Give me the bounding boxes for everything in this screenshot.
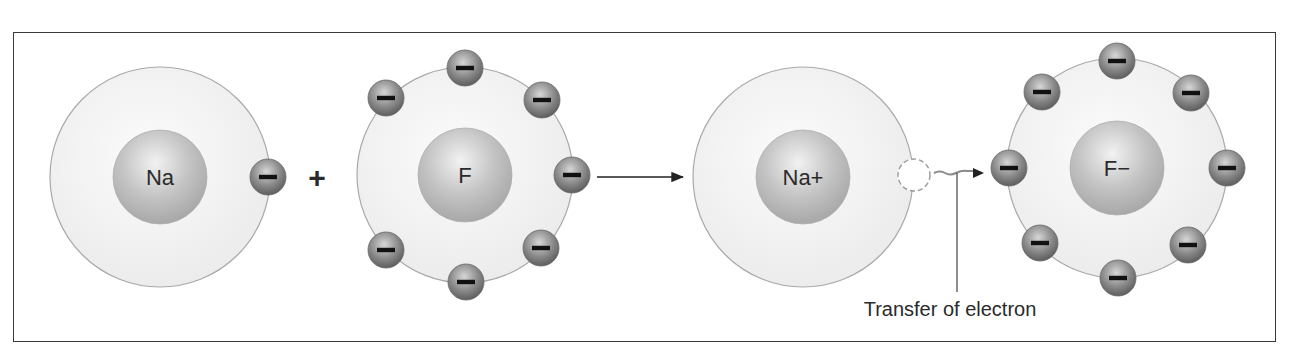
electron-icon: [368, 232, 404, 268]
electron-icon: [1022, 225, 1058, 261]
electron-icon: [524, 82, 560, 118]
vacant-electron-position: [898, 159, 930, 191]
atom-label: F−: [1104, 156, 1130, 181]
atom-label: Na+: [783, 165, 824, 190]
transfer-arrowhead-icon: [973, 168, 984, 178]
atom-label: F: [458, 163, 471, 188]
electron-icon: [1099, 43, 1135, 79]
electron-icon: [368, 80, 404, 116]
transfer-path-icon: [934, 171, 973, 175]
electron-icon: [523, 230, 559, 266]
annotation-label: Transfer of electron: [864, 298, 1037, 320]
electron-icon: [448, 264, 484, 300]
fluoride-ion: F−: [991, 43, 1245, 296]
ionic-bond-diagram: Na + F Na+ Transfer of electron F−: [0, 0, 1294, 348]
sodium-atom: Na: [50, 67, 286, 287]
electron-icon: [1209, 150, 1245, 186]
fluorine-atom: F: [357, 50, 590, 300]
electron-icon: [1170, 227, 1206, 263]
electron-icon: [1173, 75, 1209, 111]
electron-icon: [1100, 260, 1136, 296]
plus-operator: +: [308, 161, 326, 194]
electron-icon: [447, 50, 483, 86]
electron-icon: [554, 157, 590, 193]
electron-icon: [991, 150, 1027, 186]
atom-label: Na: [146, 165, 175, 190]
electron-icon: [250, 159, 286, 195]
sodium-ion: Na+: [693, 67, 930, 287]
electron-icon: [1024, 74, 1060, 110]
